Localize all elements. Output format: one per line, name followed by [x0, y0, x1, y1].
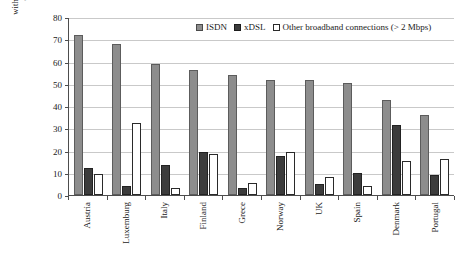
bar	[315, 184, 324, 195]
bar	[343, 83, 352, 195]
y-axis-tick-label: 70	[53, 36, 62, 45]
plot-area: 01020304050607080	[68, 18, 454, 196]
bar	[430, 175, 439, 195]
legend-label: xDSL	[244, 22, 266, 32]
x-axis-label-cell: Grece	[222, 200, 261, 272]
x-axis-label: Grece	[237, 202, 247, 223]
x-axis-label: Finland	[198, 202, 208, 230]
y-axis-tick-label: 0	[58, 192, 63, 201]
y-axis-tick-label: 30	[53, 125, 62, 134]
y-axis-tick-label: 20	[53, 147, 62, 156]
x-axis-label: Denmark	[391, 202, 401, 236]
bar	[228, 75, 237, 195]
x-axis-label-cell: Denmark	[377, 200, 416, 272]
x-axis-label-cell: Finland	[184, 200, 223, 272]
bar	[84, 168, 93, 195]
chart-legend: ISDNxDSLOther broadband connections (> 2…	[196, 22, 431, 32]
legend-label: Other broadband connections (> 2 Mbps)	[283, 22, 432, 32]
bar	[171, 188, 180, 195]
legend-swatch-other	[273, 24, 280, 31]
bar	[392, 125, 401, 195]
bar	[151, 64, 160, 195]
x-axis-tick	[454, 196, 455, 200]
x-axis-label: UK	[314, 202, 324, 215]
bar	[382, 100, 391, 195]
bar-group	[69, 18, 108, 195]
bar	[112, 44, 121, 195]
legend-item: Other broadband connections (> 2 Mbps)	[273, 22, 432, 32]
legend-item: ISDN	[196, 22, 227, 32]
legend-item: xDSL	[234, 22, 266, 32]
bar	[353, 173, 362, 195]
x-axis-label: Portugal	[430, 202, 440, 233]
bar	[325, 177, 334, 195]
bar	[94, 174, 103, 195]
bar	[238, 188, 247, 195]
x-axis-label: Luxemburg	[121, 202, 131, 244]
x-axis-labels: AustriaLuxemburgItalyFinlandGreceNorwayU…	[68, 200, 454, 272]
bar-group	[146, 18, 185, 195]
bar-group	[262, 18, 301, 195]
bar-group	[377, 18, 416, 195]
bar	[132, 123, 141, 195]
y-axis-tick-label: 50	[53, 80, 62, 89]
x-axis-label-cell: Luxemburg	[107, 200, 146, 272]
x-axis-label-cell: UK	[300, 200, 339, 272]
x-axis-label-cell: Italy	[145, 200, 184, 272]
x-axis-label: Norway	[275, 202, 285, 231]
x-axis-label: Italy	[159, 202, 169, 219]
bar	[363, 186, 372, 195]
x-axis-label-cell: Spain	[338, 200, 377, 272]
bar-group	[223, 18, 262, 195]
y-axis-title-line-2: with more than 10 employees	[10, 0, 21, 15]
bar	[440, 159, 449, 195]
legend-swatch-xdsl	[234, 24, 241, 31]
x-axis-label-cell: Austria	[68, 200, 107, 272]
bar	[420, 115, 429, 195]
y-axis-tick-label: 80	[53, 14, 62, 23]
bar-chart: % of connected firms with more than 10 e…	[0, 0, 460, 273]
bar	[199, 152, 208, 195]
legend-label: ISDN	[206, 22, 227, 32]
legend-swatch-isdn	[196, 24, 203, 31]
bar	[74, 35, 83, 195]
bar-group	[185, 18, 224, 195]
bar	[189, 70, 198, 195]
y-axis-tick-label: 10	[53, 169, 62, 178]
x-axis-label: Spain	[352, 202, 362, 223]
x-axis-label-cell: Norway	[261, 200, 300, 272]
x-axis-label: Austria	[82, 202, 92, 229]
bar	[286, 152, 295, 195]
bar-group	[300, 18, 339, 195]
bar	[402, 161, 411, 195]
bar-group	[108, 18, 147, 195]
y-axis-tick-label: 40	[53, 103, 62, 112]
bar	[122, 186, 131, 195]
bar	[266, 80, 275, 195]
bar	[209, 154, 218, 195]
x-axis-label-cell: Portugal	[415, 200, 454, 272]
y-axis-title: % of connected firms with more than 10 e…	[8, 0, 34, 48]
bar-group	[339, 18, 378, 195]
bar	[248, 183, 257, 195]
bars-layer	[69, 18, 454, 195]
y-axis-tick-label: 60	[53, 58, 62, 67]
bar	[305, 80, 314, 195]
bar	[276, 156, 285, 195]
bar	[161, 165, 170, 195]
bar-group	[416, 18, 455, 195]
